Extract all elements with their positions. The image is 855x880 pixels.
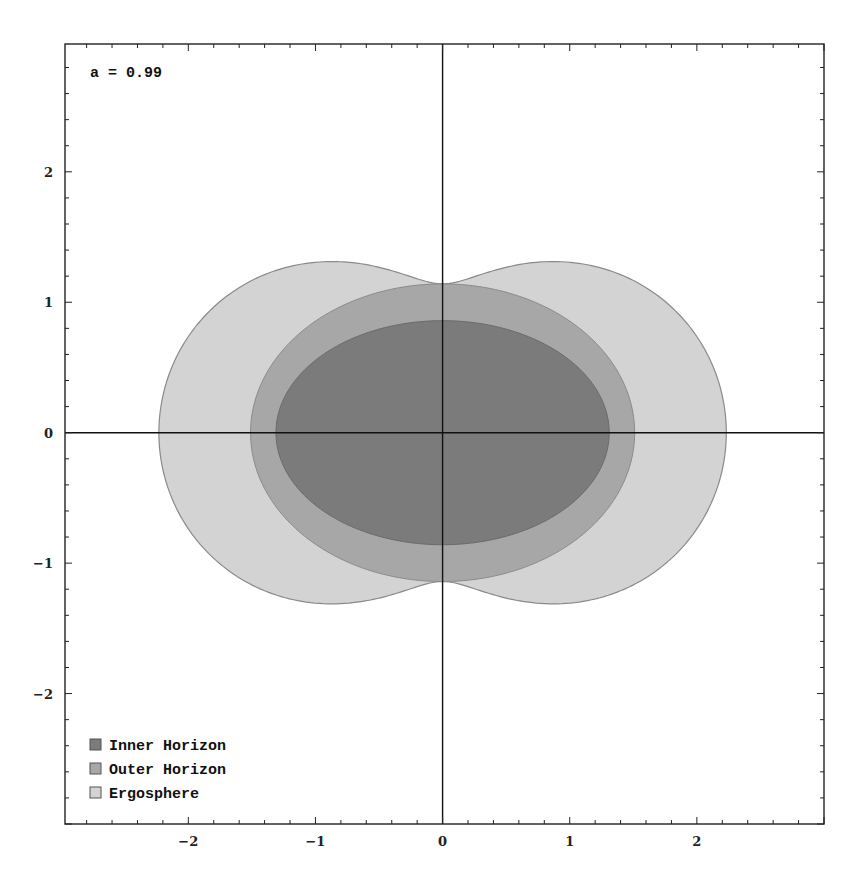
legend-swatch-icon xyxy=(90,739,101,750)
x-tick-label: 0 xyxy=(438,834,447,849)
y-tick-label: −2 xyxy=(33,687,53,702)
legend-item: Inner Horizon xyxy=(90,738,226,755)
x-tick-label: 2 xyxy=(692,834,701,849)
x-tick-label: −1 xyxy=(305,834,325,849)
x-tick-label: −2 xyxy=(178,834,198,849)
spin-annotation: a = 0.99 xyxy=(90,65,162,82)
legend-item: Outer Horizon xyxy=(90,762,226,779)
kerr-black-hole-plot: −2−1012−2−1012 a = 0.99 Inner HorizonOut… xyxy=(0,0,855,880)
legend-item: Ergosphere xyxy=(90,786,199,803)
legend: Inner HorizonOuter HorizonErgosphere xyxy=(90,738,226,803)
legend-label: Inner Horizon xyxy=(109,738,226,755)
y-tick-label: 2 xyxy=(44,165,53,180)
legend-swatch-icon xyxy=(90,763,101,774)
x-tick-label: 1 xyxy=(565,834,574,849)
y-tick-label: 1 xyxy=(44,295,53,310)
y-tick-label: −1 xyxy=(33,556,53,571)
legend-label: Outer Horizon xyxy=(109,762,226,779)
y-tick-label: 0 xyxy=(44,426,53,441)
legend-swatch-icon xyxy=(90,787,101,798)
legend-label: Ergosphere xyxy=(109,786,199,803)
